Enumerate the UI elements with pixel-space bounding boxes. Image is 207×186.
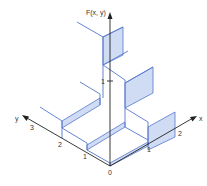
step-faces bbox=[62, 27, 175, 166]
vertical-axis-label: F(x, y) bbox=[86, 9, 106, 17]
x-axis-arrow-icon bbox=[190, 116, 197, 122]
x-tick-label-2: 2 bbox=[178, 130, 182, 137]
y-axis-label: y bbox=[15, 115, 19, 123]
vertical-axis-arrow-icon bbox=[108, 12, 113, 19]
x-tick-label-1: 1 bbox=[147, 146, 151, 153]
y-tick-label-2: 2 bbox=[58, 141, 62, 148]
x-axis-label: x bbox=[199, 115, 203, 122]
y-tick-label-1: 1 bbox=[83, 153, 87, 160]
y-axis-arrow-icon bbox=[22, 115, 29, 121]
origin-label: 0 bbox=[108, 169, 112, 176]
y-tick-label-3: 3 bbox=[30, 124, 34, 131]
joint-cdf-diagram: F(x, y) 1 x 1 2 y 1 2 3 0 bbox=[0, 0, 207, 186]
vertical-tick-label-1: 1 bbox=[101, 78, 105, 85]
